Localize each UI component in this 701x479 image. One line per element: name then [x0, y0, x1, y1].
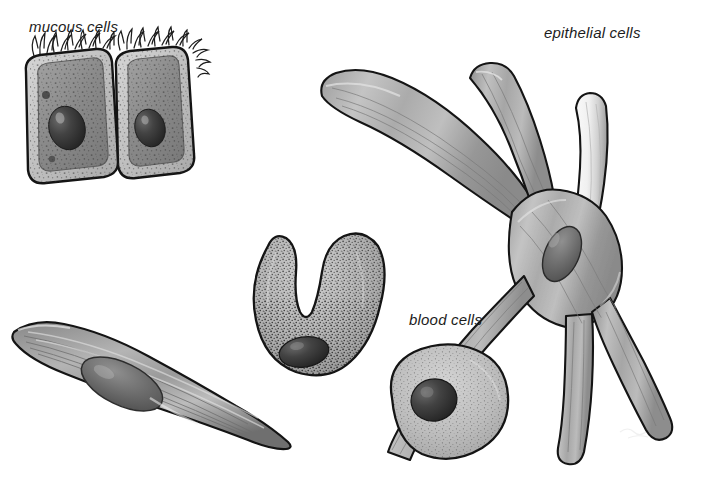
mucous-cell-right — [116, 47, 200, 180]
mucous-cells-group — [26, 27, 210, 187]
illustration-canvas — [0, 0, 701, 479]
label-epithelial-cells: epithelial cells — [544, 25, 641, 42]
mucous-cell-left — [26, 49, 125, 187]
granulocyte-cell-group — [246, 228, 396, 378]
artist-mark — [620, 429, 648, 438]
epithelial-arm-lower-middle — [558, 314, 593, 464]
cell-illustration-figure: mucous cells epithelial cells blood cell… — [0, 0, 701, 479]
label-blood-cells: blood cells — [409, 312, 482, 329]
epithelial-arm-lower-right — [592, 298, 672, 440]
label-mucous-cells: mucous cells — [29, 19, 118, 36]
spindle-cell-group — [12, 322, 290, 449]
